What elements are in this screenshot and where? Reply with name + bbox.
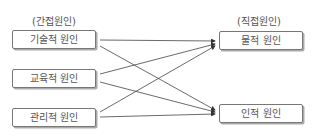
technical-cause-node: 기술적 원인	[12, 30, 96, 49]
educational-cause-node: 교육적 원인	[12, 69, 96, 88]
physical-cause-node: 물적 원인	[219, 31, 303, 50]
managerial-cause-node: 관리적 원인	[12, 108, 96, 127]
human-cause-node: 인적 원인	[219, 104, 303, 123]
